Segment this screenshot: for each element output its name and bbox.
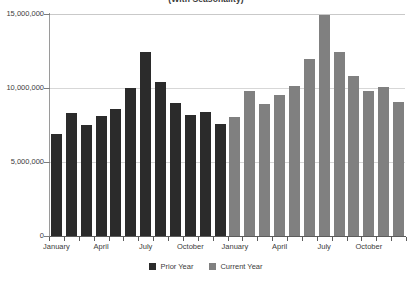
x-axis-label: October	[168, 242, 212, 251]
x-axis-label: July	[124, 242, 168, 251]
x-axis-tick	[183, 237, 184, 241]
x-axis-label: April	[79, 242, 123, 251]
bar	[348, 76, 359, 236]
y-axis-label: 10,000,000	[6, 84, 44, 92]
bar	[229, 117, 240, 236]
legend-swatch-icon	[209, 263, 216, 270]
x-axis-tick	[406, 237, 407, 241]
chart-title: (With Seasonality)	[0, 0, 412, 4]
bar	[170, 103, 181, 236]
bar	[51, 134, 62, 236]
x-axis-label: October	[347, 242, 391, 251]
bar	[96, 116, 107, 236]
x-axis-tick	[361, 237, 362, 241]
x-axis-tick	[109, 237, 110, 241]
x-axis-label: April	[258, 242, 302, 251]
legend-label: Prior Year	[160, 262, 193, 271]
y-axis-label: 5,000,000	[11, 158, 44, 166]
x-axis-tick	[287, 237, 288, 241]
legend-item: Current Year	[209, 262, 262, 271]
bar	[304, 59, 315, 236]
bar	[140, 52, 151, 236]
x-axis-tick	[213, 237, 214, 241]
x-axis-tick	[94, 237, 95, 241]
bar	[289, 86, 300, 236]
x-axis-tick	[317, 237, 318, 241]
bar	[274, 95, 285, 236]
x-axis-tick	[123, 237, 124, 241]
x-axis-tick	[272, 237, 273, 241]
legend-item: Prior Year	[149, 262, 193, 271]
bar	[125, 88, 136, 236]
x-axis-label: July	[302, 242, 346, 251]
chart-legend: Prior YearCurrent Year	[0, 262, 412, 271]
x-axis-tick	[257, 237, 258, 241]
x-axis-tick	[153, 237, 154, 241]
bar	[244, 91, 255, 236]
x-axis-tick	[198, 237, 199, 241]
bar	[185, 115, 196, 236]
bar	[155, 82, 166, 236]
bars-layer	[49, 14, 406, 236]
x-axis-label: January	[34, 242, 78, 251]
x-axis-tick	[302, 237, 303, 241]
y-axis-label: 0	[40, 232, 44, 240]
x-axis-tick	[376, 237, 377, 241]
bar	[215, 124, 226, 236]
bar	[81, 125, 92, 236]
x-axis-tick	[391, 237, 392, 241]
bar	[393, 102, 404, 236]
x-axis-tick	[64, 237, 65, 241]
x-axis-tick	[347, 237, 348, 241]
bar	[66, 113, 77, 236]
bar	[319, 15, 330, 236]
bar	[334, 52, 345, 236]
bar	[200, 112, 211, 236]
legend-label: Current Year	[220, 262, 262, 271]
x-axis-tick	[228, 237, 229, 241]
bar-chart: (With Seasonality) 05,000,00010,000,0001…	[0, 0, 412, 284]
bar	[110, 109, 121, 236]
legend-swatch-icon	[149, 263, 156, 270]
x-axis-tick	[49, 237, 50, 241]
bar	[363, 91, 374, 236]
x-axis-tick	[79, 237, 80, 241]
x-axis-tick	[332, 237, 333, 241]
bar	[259, 104, 270, 236]
x-axis-tick	[138, 237, 139, 241]
x-axis-tick	[242, 237, 243, 241]
x-axis-tick	[168, 237, 169, 241]
y-axis-label: 15,000,000	[6, 10, 44, 18]
bar	[378, 87, 389, 236]
x-axis-label: January	[213, 242, 257, 251]
